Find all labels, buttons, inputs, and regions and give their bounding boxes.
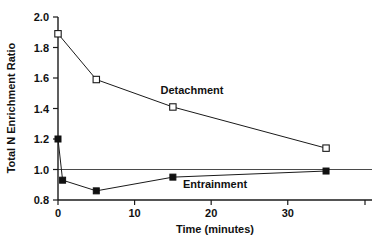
- x-tick-label-0: 0: [55, 207, 61, 219]
- marker-entrainment-1: [60, 177, 66, 183]
- y-tick-label-1.4: 1.4: [34, 103, 50, 115]
- marker-detachment-2: [170, 104, 176, 110]
- series-label-detachment: Detachment: [161, 84, 224, 96]
- y-tick-label-1.0: 1.0: [34, 164, 49, 176]
- line-chart-svg: 0.81.01.21.41.61.82.0 0102030 Detachment…: [0, 0, 381, 243]
- marker-entrainment-0: [55, 136, 61, 142]
- x-tick-label-20: 20: [205, 207, 217, 219]
- chart-figure: 0.81.01.21.41.61.82.0 0102030 Detachment…: [0, 0, 381, 243]
- marker-entrainment-4: [323, 168, 329, 174]
- marker-entrainment-3: [170, 174, 176, 180]
- y-axis-label: Total N Enrichment Ratio: [5, 42, 17, 173]
- y-tick-label-1.2: 1.2: [34, 133, 49, 145]
- x-tick-label-10: 10: [128, 207, 140, 219]
- marker-detachment-0: [55, 31, 61, 37]
- y-tick-label-1.8: 1.8: [34, 42, 49, 54]
- series-label-entrainment: Entrainment: [183, 178, 248, 190]
- marker-detachment-3: [323, 145, 329, 151]
- y-tick-label-2.0: 2.0: [34, 11, 49, 23]
- x-tick-label-30: 30: [282, 207, 294, 219]
- y-tick-label-1.6: 1.6: [34, 72, 49, 84]
- x-axis-label: Time (minutes): [176, 223, 254, 235]
- y-tick-label-0.8: 0.8: [34, 194, 49, 206]
- marker-detachment-1: [93, 76, 99, 82]
- marker-entrainment-2: [93, 188, 99, 194]
